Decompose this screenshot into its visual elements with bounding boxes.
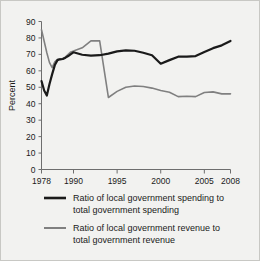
chart-figure: Percent 0102030405060708090 197819901995… (0, 0, 260, 261)
y-tick-label: 30 (26, 115, 36, 125)
x-tick-label: 1995 (108, 176, 127, 186)
series-line (42, 30, 231, 98)
y-tick-label: 0 (31, 165, 36, 175)
y-tick-label: 80 (26, 33, 36, 43)
x-tick-label: 2000 (151, 176, 170, 186)
y-tick-label: 90 (26, 17, 36, 27)
series-line (42, 41, 231, 96)
legend-label-line1: Ratio of local government spending to (73, 193, 224, 203)
y-tick-label: 20 (26, 132, 36, 142)
y-axis-ticks: 0102030405060708090 (26, 17, 41, 175)
y-axis-label: Percent (7, 79, 17, 111)
legend-label-line2: total government spending (73, 205, 179, 215)
y-axis-title: Percent (7, 79, 17, 111)
y-tick-label: 40 (26, 99, 36, 109)
x-tick-label: 1978 (32, 176, 51, 186)
chart-axes (42, 22, 231, 170)
line-chart: Percent 0102030405060708090 197819901995… (1, 1, 260, 261)
y-tick-label: 70 (26, 49, 36, 59)
y-tick-label: 60 (26, 66, 36, 76)
x-tick-label: 2005 (195, 176, 214, 186)
y-tick-label: 50 (26, 82, 36, 92)
chart-legend: Ratio of local government spending totot… (44, 193, 224, 245)
y-tick-label: 10 (26, 148, 36, 158)
x-axis-ticks: 197819901995200020052008 (32, 170, 240, 186)
x-tick-label: 1990 (64, 176, 83, 186)
legend-label-line2: total government revenue (73, 235, 175, 245)
chart-series (42, 30, 231, 98)
x-tick-label: 2008 (221, 176, 240, 186)
legend-label-line1: Ratio of local government revenue to (73, 223, 220, 233)
